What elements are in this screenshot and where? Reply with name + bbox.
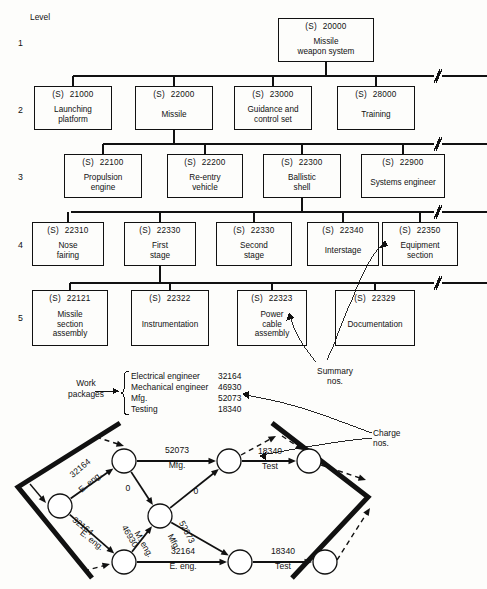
network-node-n5[interactable]: [217, 449, 241, 473]
arc-number: 18340: [244, 446, 296, 456]
arc-resource: Mfg.: [151, 460, 203, 470]
arc-number: 52073: [151, 445, 203, 455]
arc-number: 32164: [157, 546, 209, 556]
network-node-n6[interactable]: [228, 550, 252, 574]
network-node-n2[interactable]: [112, 449, 136, 473]
arc-resource: E. eng.: [157, 561, 209, 571]
network-node-n7[interactable]: [297, 449, 321, 473]
arc-resource: Test: [257, 561, 309, 571]
wbs-network-diagram: Level 1 2 3 4 5 (S)20000Missile weapon s…: [0, 0, 487, 589]
network-node-n8[interactable]: [313, 550, 337, 574]
network-node-n4[interactable]: [112, 550, 136, 574]
arc-number: 0: [170, 486, 222, 496]
arc-number: 18340: [257, 546, 309, 556]
arc-resource: Test: [244, 461, 296, 471]
arc-number: 0: [102, 483, 154, 493]
